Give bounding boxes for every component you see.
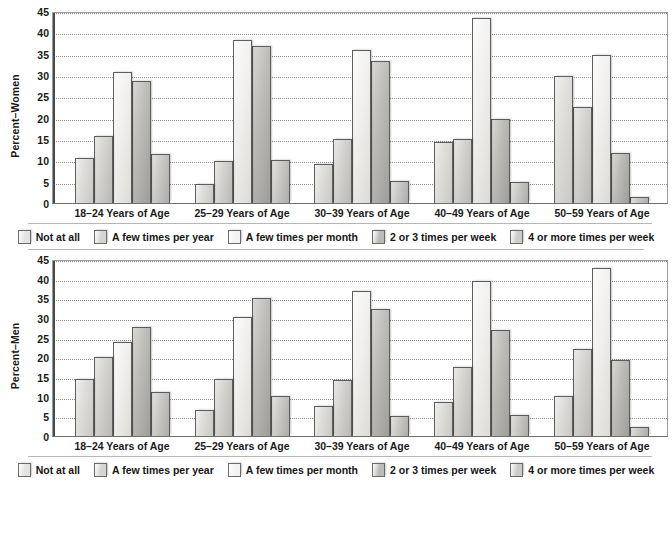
legend-item[interactable]: 2 or 3 times per week [372, 463, 496, 477]
bar-cluster [314, 261, 409, 436]
panel-men: Percent–Men 051015202530354045 18–24 Yea… [0, 250, 672, 457]
bar-group [422, 261, 542, 436]
y-axis-tick-label: 0 [43, 199, 49, 210]
bar[interactable] [472, 18, 491, 203]
bar[interactable] [390, 416, 409, 436]
bar[interactable] [510, 415, 529, 436]
bar[interactable] [214, 161, 233, 203]
bar[interactable] [491, 119, 510, 203]
x-axis-category-labels-men: 18–24 Years of Age25–29 Years of Age30–3… [52, 440, 668, 452]
y-axis-tick-label: 20 [37, 353, 49, 364]
legend-label: 4 or more times per week [528, 231, 654, 243]
bar[interactable] [151, 154, 170, 203]
legend-swatch-icon [510, 230, 523, 244]
bar[interactable] [113, 72, 132, 203]
bar[interactable] [573, 349, 592, 436]
bar[interactable] [352, 50, 371, 203]
bar[interactable] [630, 427, 649, 436]
legend-swatch-icon [94, 230, 107, 244]
legend-swatch-icon [510, 463, 523, 477]
legend-swatch-icon [372, 463, 385, 477]
bar[interactable] [333, 380, 352, 436]
bar[interactable] [611, 153, 630, 203]
bar[interactable] [510, 182, 529, 203]
y-axis-label-container-women: Percent–Women [0, 12, 30, 219]
legend-item[interactable]: Not at all [18, 230, 80, 244]
bar[interactable] [314, 164, 333, 203]
legend-item[interactable]: A few times per year [94, 463, 214, 477]
bar[interactable] [371, 309, 390, 436]
bar[interactable] [611, 360, 630, 436]
bar[interactable] [271, 396, 290, 436]
panel-divider-women [28, 223, 652, 224]
bar[interactable] [132, 327, 151, 436]
bar[interactable] [252, 298, 271, 436]
legend-women: Not at allA few times per yearA few time… [0, 224, 672, 249]
bar[interactable] [592, 55, 611, 203]
bar[interactable] [94, 357, 113, 436]
bar[interactable] [554, 396, 573, 436]
bar[interactable] [592, 268, 611, 436]
bar[interactable] [252, 46, 271, 203]
bar[interactable] [214, 379, 233, 436]
legend-label: 2 or 3 times per week [390, 231, 496, 243]
chart-page: Percent–Women 051015202530354045 18–24 Y… [0, 0, 672, 542]
y-axis-tick-label: 25 [37, 333, 49, 344]
bar[interactable] [113, 342, 132, 436]
bar[interactable] [314, 406, 333, 436]
bar[interactable] [94, 136, 113, 203]
bar[interactable] [491, 330, 510, 436]
legend-label: 2 or 3 times per week [390, 464, 496, 476]
bar-cluster [434, 261, 529, 436]
bar[interactable] [352, 291, 371, 436]
bar-group [422, 13, 542, 203]
legend-swatch-icon [228, 230, 241, 244]
bar[interactable] [333, 139, 352, 203]
bar[interactable] [195, 410, 214, 436]
y-axis-tick-label: 45 [37, 255, 49, 266]
y-axis-tick-label: 40 [37, 28, 49, 39]
x-axis-category-label: 50–59 Years of Age [542, 440, 662, 452]
y-axis-label-container-men: Percent–Men [0, 260, 30, 452]
bar[interactable] [434, 402, 453, 436]
bar[interactable] [233, 40, 252, 203]
bar[interactable] [390, 181, 409, 203]
legend-item[interactable]: A few times per year [94, 230, 214, 244]
y-axis-tick-label: 10 [37, 392, 49, 403]
bar[interactable] [472, 281, 491, 436]
legend-swatch-icon [18, 230, 31, 244]
bar[interactable] [271, 160, 290, 203]
y-axis-tick-label: 35 [37, 49, 49, 60]
x-axis-category-labels-women: 18–24 Years of Age25–29 Years of Age30–3… [52, 207, 668, 219]
bar[interactable] [630, 197, 649, 203]
bar[interactable] [233, 317, 252, 436]
bar[interactable] [132, 81, 151, 203]
bar[interactable] [453, 367, 472, 436]
bar[interactable] [75, 379, 94, 436]
x-axis-category-label: 50–59 Years of Age [542, 207, 662, 219]
y-axis-tick-label: 0 [43, 432, 49, 443]
x-axis-category-label: 25–29 Years of Age [182, 440, 302, 452]
y-axis-tick-label: 25 [37, 92, 49, 103]
y-axis-tick-label: 5 [43, 412, 49, 423]
legend-swatch-icon [372, 230, 385, 244]
bar[interactable] [75, 158, 94, 203]
bar[interactable] [434, 142, 453, 203]
legend-item[interactable]: 2 or 3 times per week [372, 230, 496, 244]
legend-item[interactable]: Not at all [18, 463, 80, 477]
bar[interactable] [195, 184, 214, 203]
legend-item[interactable]: 4 or more times per week [510, 230, 654, 244]
legend-label: Not at all [36, 464, 80, 476]
legend-item[interactable]: 4 or more times per week [510, 463, 654, 477]
plot-area-women [52, 12, 668, 204]
bar[interactable] [554, 76, 573, 203]
bar[interactable] [371, 61, 390, 203]
legend-item[interactable]: A few times per month [228, 463, 358, 477]
bar[interactable] [453, 139, 472, 203]
y-axis-tick-label: 20 [37, 113, 49, 124]
legend-item[interactable]: A few times per month [228, 230, 358, 244]
bar[interactable] [573, 107, 592, 203]
bar[interactable] [151, 392, 170, 436]
bar-cluster [554, 13, 649, 203]
bar-group [302, 261, 422, 436]
